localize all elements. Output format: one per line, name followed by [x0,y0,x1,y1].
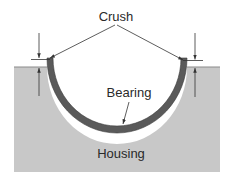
crush-leader-left [50,25,115,58]
bearing-crush-diagram: Crush Bearing Housing [0,0,231,177]
crush-label: Crush [99,9,134,24]
housing-label: Housing [97,146,145,161]
crush-leader-right [117,25,183,60]
bearing-leader [123,102,129,124]
bearing-label: Bearing [107,85,152,100]
